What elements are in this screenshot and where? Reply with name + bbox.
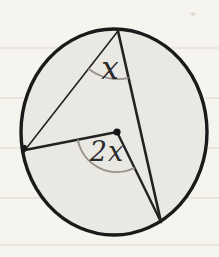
central-angle-label: 2x — [89, 136, 124, 167]
center-point — [113, 128, 120, 135]
inscribed-angle-label: x — [101, 50, 119, 86]
notebook-paper: x 2x — [0, 0, 219, 257]
circle-theorem-figure: x 2x — [0, 0, 219, 257]
